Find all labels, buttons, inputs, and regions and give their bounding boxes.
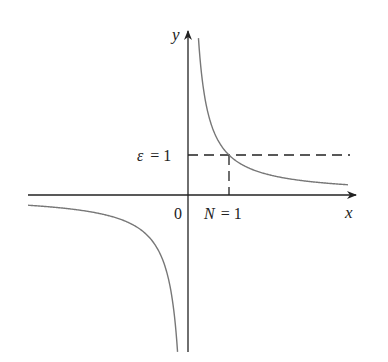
n-value: = 1 bbox=[221, 205, 242, 222]
curve-right-branch bbox=[198, 38, 347, 185]
x-axis-label: x bbox=[344, 203, 353, 222]
hyperbola-figure: y x 0 ε = 1 N = 1 bbox=[0, 0, 388, 362]
n-symbol: N bbox=[203, 205, 216, 222]
epsilon-symbol: ε bbox=[137, 147, 144, 164]
n-label: N = 1 bbox=[203, 205, 242, 222]
y-axis-label: y bbox=[170, 25, 180, 44]
plot-canvas: y x 0 ε = 1 N = 1 bbox=[0, 0, 388, 362]
epsilon-value: = 1 bbox=[150, 147, 171, 164]
curve-left-branch bbox=[28, 205, 177, 352]
epsilon-label: ε = 1 bbox=[137, 147, 171, 164]
origin-label: 0 bbox=[174, 205, 182, 222]
